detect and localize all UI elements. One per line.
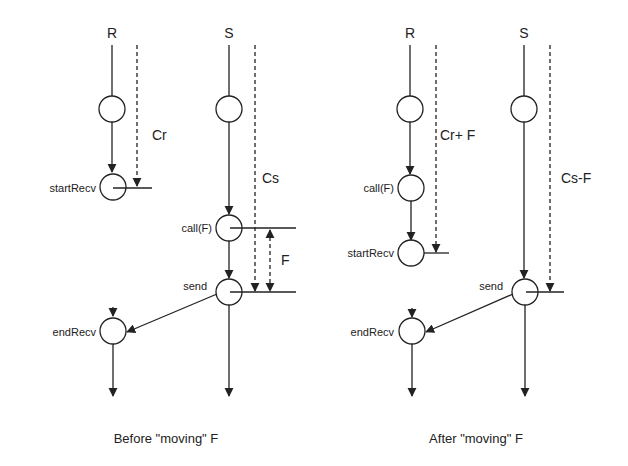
after-panel (397, 45, 564, 396)
endrecv-circle (399, 318, 425, 344)
endrecv-circle (100, 318, 126, 344)
call-f-circle (398, 175, 424, 201)
endrecv-label: endRecv (53, 326, 97, 338)
message-arrow (426, 294, 513, 332)
startrecv-label: startRecv (348, 247, 395, 259)
before-panel (99, 45, 296, 396)
r-event-circle (99, 96, 125, 122)
s-process-label: S (224, 25, 233, 41)
r-event-circle (397, 96, 423, 122)
startrecv-circle (100, 174, 126, 200)
s-event-circle (216, 96, 242, 122)
s-event-circle (511, 96, 537, 122)
call-f-label: call(F) (181, 222, 212, 234)
startrecv-label: startRecv (50, 182, 97, 194)
cr-label: Cr (152, 127, 167, 143)
message-arrow (127, 294, 217, 332)
send-label: send (479, 280, 503, 292)
r-process-label: R (107, 25, 117, 41)
cs-label: Cs (262, 170, 279, 186)
diagram-canvas: R S Cr Cs F startRecv call(F) send endRe… (0, 0, 628, 466)
before-caption: Before "moving" F (114, 431, 219, 446)
r-process-label: R (405, 25, 415, 41)
cs-minus-f-label: Cs-F (561, 170, 591, 186)
call-f-label: call(F) (363, 182, 394, 194)
endrecv-label: endRecv (351, 326, 395, 338)
after-caption: After "moving" F (429, 431, 523, 446)
send-label: send (183, 280, 207, 292)
cr-plus-f-label: Cr+ F (440, 127, 475, 143)
s-process-label: S (519, 25, 528, 41)
startrecv-circle (398, 240, 424, 266)
f-label: F (281, 252, 290, 268)
